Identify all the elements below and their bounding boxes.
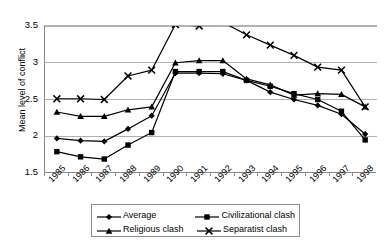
- chart-legend: Average Civilizational clash Religious c…: [91, 204, 300, 237]
- plot-svg: [45, 26, 377, 173]
- x-data-point: [243, 31, 250, 38]
- y-tick-label: 2.5: [14, 94, 38, 104]
- square-data-point: [315, 97, 320, 102]
- square-data-point: [78, 154, 83, 159]
- triangle-data-point: [54, 109, 61, 115]
- square-data-point: [54, 149, 59, 154]
- diamond-marker-icon: [96, 209, 122, 221]
- x-data-point: [267, 42, 274, 49]
- y-tick-label: 3: [14, 57, 38, 67]
- diamond-data-point: [101, 138, 107, 144]
- legend-item-average: Average: [96, 209, 194, 221]
- x-data-point: [291, 52, 298, 59]
- square-data-point: [196, 69, 201, 74]
- y-axis-tick-labels: 1.522.533.5: [12, 0, 38, 243]
- legend-item-separatist-clash: Separatist clash: [196, 223, 287, 235]
- legend-label: Separatist clash: [222, 225, 287, 234]
- square-data-point: [173, 69, 178, 74]
- square-marker-icon: [194, 209, 220, 221]
- y-tick-label: 1.5: [14, 167, 38, 177]
- legend-item-civilizational-clash: Civilizational clash: [194, 209, 295, 221]
- y-tick-label: 2: [14, 130, 38, 140]
- diamond-data-point: [149, 113, 155, 119]
- legend-label: Religious clash: [122, 225, 184, 234]
- legend-item-religious-clash: Religious clash: [96, 223, 196, 235]
- square-data-point: [220, 69, 225, 74]
- series-average: [54, 70, 368, 145]
- square-data-point: [205, 214, 210, 219]
- diamond-data-point: [106, 214, 112, 220]
- series-separatist-clash: [53, 26, 368, 110]
- triangle-marker-icon: [96, 223, 122, 235]
- legend-row: Average Civilizational clash: [96, 208, 295, 222]
- diamond-data-point: [77, 138, 83, 144]
- plot-area: [44, 25, 377, 173]
- series-religious-clash: [54, 57, 369, 119]
- series-civilizational-clash: [54, 69, 368, 162]
- x-marker-icon: [196, 223, 222, 235]
- square-data-point: [125, 142, 130, 147]
- square-data-point: [149, 130, 154, 135]
- legend-label: Civilizational clash: [220, 211, 295, 220]
- y-tick-label: 3.5: [14, 20, 38, 30]
- square-data-point: [362, 137, 367, 142]
- diamond-data-point: [267, 89, 273, 95]
- square-data-point: [102, 156, 107, 161]
- conflict-line-chart: Mean level of conflict 1.522.533.5 19851…: [0, 0, 391, 243]
- diamond-data-point: [125, 126, 131, 132]
- square-data-point: [339, 109, 344, 114]
- legend-row: Religious clash Separatist clash: [96, 222, 295, 236]
- diamond-data-point: [315, 102, 321, 108]
- x-data-point: [196, 26, 203, 29]
- legend-label: Average: [122, 211, 156, 220]
